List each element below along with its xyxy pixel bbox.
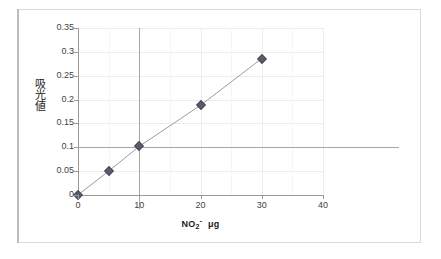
- x-axis-title: NO2- μg: [78, 217, 323, 230]
- series-line: [78, 59, 262, 195]
- y-axis-tick-label: 0.35: [56, 23, 74, 32]
- y-axis-title: 吸光値: [24, 78, 46, 148]
- x-axis-tick-mark: [262, 195, 263, 199]
- y-axis-tick-mark: [74, 100, 78, 101]
- x-axis-tick-label: 0: [63, 200, 93, 210]
- y-axis-tick-mark: [74, 123, 78, 124]
- x-axis-tick-mark: [139, 195, 140, 199]
- y-axis-tick-mark: [74, 52, 78, 53]
- data-series-line: [78, 28, 323, 195]
- y-axis-tick-label: 0.2: [61, 95, 74, 104]
- y-axis-tick-label: 0.05: [56, 166, 74, 175]
- y-axis-tick-mark: [74, 147, 78, 148]
- y-axis-tick-mark: [74, 28, 78, 29]
- x-axis-tick-label: 30: [247, 200, 277, 210]
- y-axis-tick-label: 0.1: [61, 142, 74, 151]
- y-axis-tick-mark: [74, 76, 78, 77]
- x-axis-tick-label: 40: [308, 200, 338, 210]
- x-axis-tick-mark: [78, 195, 79, 199]
- x-axis-tick-label: 10: [124, 200, 154, 210]
- y-axis-tick-mark: [74, 171, 78, 172]
- y-axis-tick-label: 0.15: [56, 118, 74, 127]
- y-axis-tick-label: 0.3: [61, 47, 74, 56]
- chart-frame-left-edge: [17, 9, 19, 243]
- x-axis-tick-label: 20: [186, 200, 216, 210]
- x-axis-tick-mark: [323, 195, 324, 199]
- gridline-vertical: [323, 28, 324, 195]
- y-axis-tick-label: 0.25: [56, 71, 74, 80]
- x-axis-tick-mark: [201, 195, 202, 199]
- figure-canvas: 00.050.10.150.20.250.30.35 NO2- μg 吸光値 0…: [0, 0, 441, 259]
